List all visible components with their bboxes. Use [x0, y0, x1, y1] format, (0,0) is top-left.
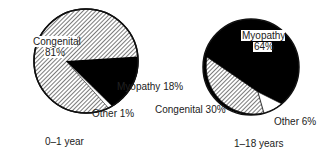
- chart-canvas: Congenital 81% Myopathy 18% Other 1% 0–1…: [0, 0, 326, 160]
- label-congenital-name: Congenital: [33, 36, 81, 47]
- pie-0-1-year: [34, 9, 138, 113]
- label-other-1: Other 1%: [92, 108, 134, 119]
- label-other-6: Other 6%: [274, 116, 316, 127]
- label-congenital-pct: 81%: [45, 47, 65, 58]
- label-myopathy-name: Myopathy: [242, 30, 285, 41]
- label-congenital-30: Congenital 30%: [155, 104, 226, 115]
- caption-1-18-years: 1–18 years: [234, 138, 283, 149]
- caption-0-1-year: 0–1 year: [45, 136, 85, 147]
- label-myopathy-18: Myopathy 18%: [117, 81, 183, 92]
- label-myopathy-pct: 64%: [254, 41, 274, 52]
